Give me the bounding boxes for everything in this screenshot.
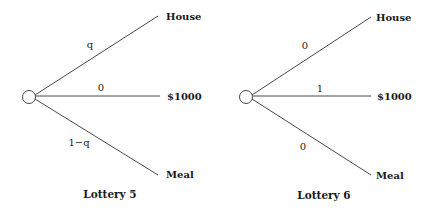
lottery-5-tree: q 0 1−q House $1000 Meal Lottery 5 (23, 11, 202, 200)
chance-node (240, 91, 253, 104)
lottery-title: Lottery 6 (297, 189, 350, 201)
prob-label-1000: 1 (317, 83, 323, 94)
lottery-6-tree: 0 1 0 House $1000 Meal Lottery 6 (240, 12, 412, 201)
lottery-diagrams: q 0 1−q House $1000 Meal Lottery 5 0 1 0… (0, 0, 426, 213)
branch-house (252, 17, 371, 95)
outcome-house: House (166, 11, 201, 22)
outcome-meal: Meal (166, 169, 194, 180)
branch-meal (35, 99, 158, 175)
lottery-title: Lottery 5 (83, 188, 136, 200)
prob-label-1000: 0 (98, 82, 104, 93)
prob-label-house: 0 (302, 40, 308, 51)
outcome-house: House (376, 12, 411, 23)
branch-meal (252, 99, 371, 175)
chance-node (23, 91, 36, 104)
prob-label-house: q (87, 39, 94, 50)
outcome-meal: Meal (376, 170, 404, 181)
branch-house (35, 16, 158, 95)
outcome-1000: $1000 (167, 91, 202, 102)
outcome-1000: $1000 (377, 91, 412, 102)
prob-label-meal: 0 (300, 141, 306, 152)
prob-label-meal: 1−q (68, 137, 90, 148)
